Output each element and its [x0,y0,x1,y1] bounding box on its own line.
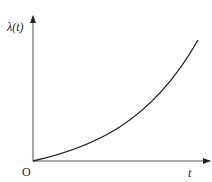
x-axis-label: t [188,167,191,179]
y-axis-label: λ(t) [7,21,24,33]
hazard-curve [33,40,198,161]
origin-label: O [22,166,31,178]
chart-canvas [0,0,212,182]
